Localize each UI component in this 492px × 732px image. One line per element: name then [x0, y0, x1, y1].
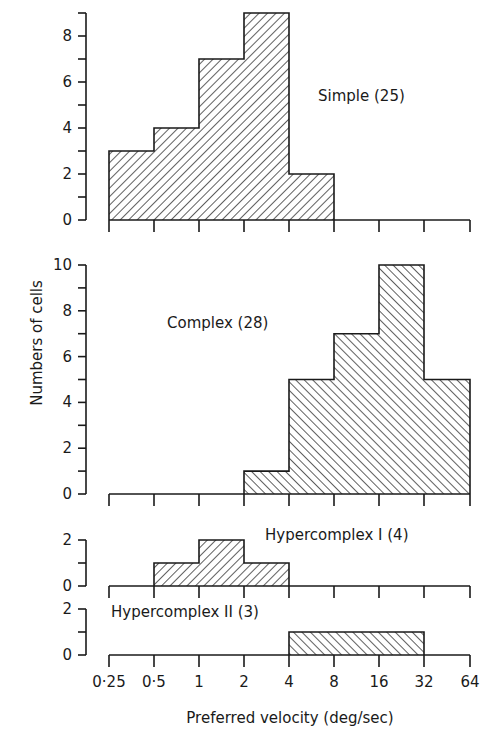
panel-label: Hypercomplex II (3): [111, 603, 259, 621]
histogram-bar: [424, 380, 470, 495]
histogram-bar: [109, 151, 154, 220]
panel-3: 02Hypercomplex I (4): [62, 526, 470, 598]
y-tick-label: 0: [62, 646, 72, 664]
y-tick-label: 4: [62, 393, 72, 411]
histogram-bar: [334, 334, 379, 494]
histogram-bar: [244, 471, 289, 494]
x-axis-label: Preferred velocity (deg/sec): [186, 709, 393, 727]
x-tick-label: 4: [284, 673, 294, 691]
y-tick-label: 8: [62, 302, 72, 320]
panel-label: Simple (25): [318, 87, 405, 105]
histogram-bar: [289, 380, 334, 495]
y-tick-label: 0: [62, 211, 72, 229]
histogram-bar: [244, 563, 289, 586]
y-tick-label: 2: [62, 600, 72, 618]
histogram-bar: [244, 13, 289, 220]
y-tick-label: 10: [53, 256, 72, 274]
panel-label: Hypercomplex I (4): [265, 526, 409, 544]
x-tick-label: 16: [369, 673, 388, 691]
histogram-figure: 02468Simple (25)0246810Complex (28)02Hyp…: [0, 0, 492, 732]
histogram-bar: [154, 128, 199, 220]
x-tick-label: 8: [329, 673, 339, 691]
panel-2: 0246810Complex (28): [53, 256, 470, 506]
histogram-bar: [379, 632, 424, 655]
x-tick-label: 1: [194, 673, 204, 691]
y-tick-label: 4: [62, 119, 72, 137]
histogram-bar: [289, 632, 334, 655]
y-tick-label: 6: [62, 348, 72, 366]
histogram-bar: [334, 632, 379, 655]
x-tick-label: 64: [460, 673, 479, 691]
y-tick-label: 2: [62, 531, 72, 549]
x-tick-label: 0·5: [142, 673, 166, 691]
panel-4: 02Hypercomplex II (3): [62, 600, 470, 667]
y-tick-label: 8: [62, 27, 72, 45]
y-tick-label: 0: [62, 577, 72, 595]
histogram-bar: [199, 540, 244, 586]
y-tick-label: 2: [62, 165, 72, 183]
histogram-bar: [154, 563, 199, 586]
y-axis-label: Numbers of cells: [28, 280, 46, 406]
panel-label: Complex (28): [167, 314, 268, 332]
y-tick-label: 2: [62, 439, 72, 457]
y-tick-label: 6: [62, 73, 72, 91]
x-tick-label: 0·25: [92, 673, 125, 691]
histogram-bar: [379, 265, 424, 494]
panel-1: 02468Simple (25): [62, 13, 470, 232]
x-tick-label: 32: [414, 673, 433, 691]
histogram-bar: [289, 174, 334, 220]
x-tick-label: 2: [239, 673, 249, 691]
histogram-bar: [199, 59, 244, 220]
y-tick-label: 0: [62, 485, 72, 503]
